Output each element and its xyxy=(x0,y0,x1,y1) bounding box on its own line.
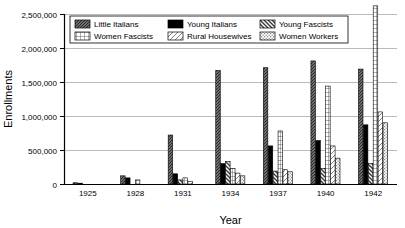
legend-swatch xyxy=(75,32,90,40)
bar-group xyxy=(121,176,140,184)
legend-label: Women Fascists xyxy=(94,32,153,41)
y-tick-label: 1,000,000 xyxy=(21,113,57,122)
y-tick-label: 0 xyxy=(53,181,58,190)
bar xyxy=(188,181,193,184)
legend-label: Women Workers xyxy=(279,32,338,41)
bar xyxy=(263,68,268,184)
bar xyxy=(135,180,140,184)
bar xyxy=(178,180,183,184)
bar xyxy=(363,125,368,184)
enrollments-bar-chart: 0500,0001,000,0001,500,0002,000,0002,500… xyxy=(0,0,405,228)
legend: Little ItaliansYoung ItaliansYoung Fasci… xyxy=(70,16,348,43)
bar xyxy=(368,164,373,184)
legend-entry: Young Fascists xyxy=(260,20,333,29)
bar xyxy=(126,178,131,184)
bar xyxy=(373,6,378,184)
bar xyxy=(358,69,363,184)
legend-label: Rural Housewives xyxy=(187,32,251,41)
bar xyxy=(331,146,336,184)
bar xyxy=(231,168,236,184)
bar xyxy=(226,162,231,184)
bar xyxy=(235,173,240,184)
legend-entry: Rural Housewives xyxy=(168,32,251,41)
bar xyxy=(173,174,178,184)
bar xyxy=(283,170,288,184)
x-tick-label: 1925 xyxy=(79,189,97,198)
x-tick-label: 1931 xyxy=(174,189,192,198)
bar xyxy=(321,168,326,184)
legend-swatch xyxy=(168,32,183,40)
bar xyxy=(240,176,245,184)
legend-label: Young Italians xyxy=(187,20,237,29)
bar xyxy=(335,158,340,184)
x-tick-label: 1942 xyxy=(364,189,382,198)
bar xyxy=(78,183,83,184)
bar xyxy=(383,123,388,184)
x-axis-title: Year xyxy=(219,214,242,226)
x-tick-label: 1940 xyxy=(317,189,335,198)
bar xyxy=(221,164,226,184)
bar-group xyxy=(216,70,245,184)
legend-entry: Young Italians xyxy=(168,20,237,29)
bar xyxy=(121,176,126,184)
legend-swatch xyxy=(260,20,275,28)
legend-entry: Women Workers xyxy=(260,32,338,41)
x-tick-label: 1937 xyxy=(269,189,287,198)
bar-group xyxy=(168,135,192,184)
bar xyxy=(273,171,278,184)
bar xyxy=(326,86,331,184)
y-tick-label: 2,500,000 xyxy=(21,11,57,20)
legend-swatch xyxy=(75,20,90,28)
x-axis-labels: 1925192819311934193719401942 xyxy=(79,189,383,198)
bar xyxy=(316,140,321,184)
bar xyxy=(378,112,383,184)
x-tick-label: 1928 xyxy=(126,189,144,198)
bar xyxy=(278,131,283,184)
legend-entry: Women Fascists xyxy=(75,32,153,41)
bar xyxy=(288,172,293,184)
legend-entry: Little Italians xyxy=(75,20,138,29)
y-tick-label: 500,000 xyxy=(28,147,57,156)
bar-group xyxy=(311,61,340,184)
bar-group xyxy=(358,6,387,184)
bar xyxy=(216,70,221,184)
legend-swatch xyxy=(260,32,275,40)
bar xyxy=(168,135,173,184)
legend-label: Little Italians xyxy=(94,20,138,29)
y-axis-title: Enrollments xyxy=(2,69,14,128)
bar xyxy=(268,146,273,184)
legend-label: Young Fascists xyxy=(279,20,333,29)
bar-group xyxy=(73,183,82,184)
x-tick-label: 1934 xyxy=(222,189,240,198)
chart-canvas: 0500,0001,000,0001,500,0002,000,0002,500… xyxy=(0,0,405,228)
bar xyxy=(73,183,78,184)
bar xyxy=(183,178,188,184)
bar-group xyxy=(263,68,292,184)
bar xyxy=(311,61,316,184)
legend-swatch xyxy=(168,20,183,28)
y-tick-label: 1,500,000 xyxy=(21,79,57,88)
y-tick-label: 2,000,000 xyxy=(21,45,57,54)
